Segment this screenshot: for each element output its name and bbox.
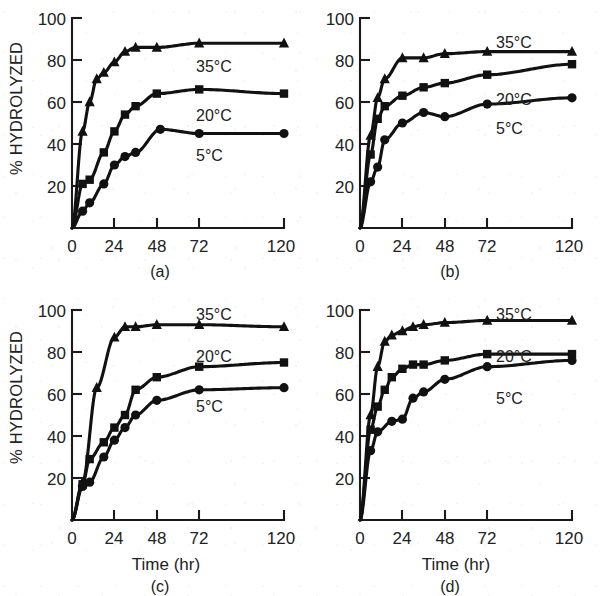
ytick-label-40: 40 (335, 136, 354, 155)
data-point-circle (483, 100, 492, 109)
xtick-label-48: 48 (148, 237, 167, 256)
data-point-circle (156, 125, 165, 134)
series-label-35c: 35°C (496, 34, 532, 51)
xtick-label-24: 24 (393, 237, 412, 256)
xtick-label-72: 72 (190, 529, 209, 548)
axis-lines (360, 18, 572, 228)
data-point-circle (78, 207, 87, 216)
panel-c-xtick-labels: 0 24 48 72 120 (67, 529, 295, 548)
data-point-circle (366, 177, 375, 186)
xtick-label-24: 24 (105, 529, 124, 548)
data-point-square (131, 386, 139, 394)
data-point-circle (419, 387, 428, 396)
data-point-circle (195, 129, 204, 138)
panel-d-data (360, 315, 577, 520)
panel-c-data (72, 319, 289, 520)
data-point-triangle (78, 126, 88, 136)
series-label-5c: 5°C (196, 398, 223, 415)
y-axis-title: % HYDROLYZED (7, 331, 25, 464)
ytick-label-60: 60 (335, 94, 354, 113)
data-point-square (153, 89, 161, 97)
data-point-square (280, 358, 288, 366)
data-point-square (100, 438, 108, 446)
panel-a: % HYDROLYZED 100 80 60 40 20 (0, 0, 300, 298)
data-point-square (85, 176, 93, 184)
data-point-square (280, 89, 288, 97)
data-point-circle (99, 452, 108, 461)
ytick-label-20: 20 (335, 178, 354, 197)
ytick-label-60: 60 (335, 386, 354, 405)
curve-35C (72, 325, 284, 520)
panel-d: 100 80 60 40 20 0 24 48 72 120 35°C 20°C… (300, 298, 600, 596)
data-point-square (398, 92, 406, 100)
ytick-label-100: 100 (326, 302, 354, 321)
xtick-label-24: 24 (105, 237, 124, 256)
data-point-square (110, 127, 118, 135)
series-label-20c: 20°C (496, 91, 532, 108)
data-point-square (121, 411, 129, 419)
curve-5C (72, 129, 284, 228)
data-point-circle (110, 160, 119, 169)
xtick-label-0: 0 (355, 237, 364, 256)
panel-caption-a: (a) (150, 263, 170, 280)
data-point-circle (279, 129, 288, 138)
ytick-label-80: 80 (47, 344, 66, 363)
data-point-square (121, 110, 129, 118)
data-point-circle (440, 375, 449, 384)
curve-20C (72, 89, 284, 228)
data-point-square (409, 360, 417, 368)
data-point-circle (373, 163, 382, 172)
y-axis-title: % HYDROLYZED (7, 42, 25, 175)
panel-c-ytick-labels: 100 80 60 40 20 (38, 302, 66, 489)
series-label-35c: 35°C (196, 58, 232, 75)
data-point-circle (440, 112, 449, 121)
ytick-label-80: 80 (335, 52, 354, 71)
panel-b-axes (360, 18, 572, 228)
data-point-circle (373, 427, 382, 436)
panel-d-xtick-labels: 0 24 48 72 120 (355, 529, 583, 548)
panel-a-plot: % HYDROLYZED 100 80 60 40 20 (0, 0, 300, 298)
xtick-label-0: 0 (67, 237, 76, 256)
panel-b-ytick-labels: 100 80 60 40 20 (326, 10, 354, 197)
data-point-circle (366, 446, 375, 455)
panel-c: % HYDROLYZED 100 80 60 40 20 (0, 298, 300, 596)
data-point-triangle (85, 96, 95, 106)
panel-b: 100 80 60 40 20 0 24 48 72 120 35°C 20°C… (300, 0, 600, 298)
panel-c-ylabel-group: % HYDROLYZED (7, 331, 25, 464)
panel-c-series-labels: 35°C 20°C 5°C (196, 306, 232, 415)
data-point-circle (110, 436, 119, 445)
data-point-square (381, 386, 389, 394)
series-label-35c: 35°C (496, 306, 532, 323)
data-point-circle (279, 383, 288, 392)
curve-5C (360, 98, 572, 228)
data-point-square (195, 85, 203, 93)
data-point-square (441, 79, 449, 87)
data-point-square (85, 455, 93, 463)
data-point-square (153, 373, 161, 381)
axis-lines (360, 310, 572, 520)
curve-20C (360, 64, 572, 228)
ytick-label-40: 40 (47, 428, 66, 447)
data-point-square (419, 360, 427, 368)
xtick-label-72: 72 (478, 237, 497, 256)
ytick-label-100: 100 (38, 302, 66, 321)
data-point-square (441, 356, 449, 364)
data-point-circle (85, 478, 94, 487)
panel-a-data (72, 38, 289, 228)
data-point-square (568, 60, 576, 68)
xtick-label-0: 0 (355, 529, 364, 548)
ytick-label-80: 80 (47, 52, 66, 71)
data-point-circle (483, 362, 492, 371)
panel-a-xtick-labels: 0 24 48 72 120 (67, 237, 295, 256)
panel-d-axes (360, 310, 572, 520)
ytick-label-20: 20 (335, 470, 354, 489)
xtick-label-0: 0 (67, 529, 76, 548)
series-label-20c: 20°C (496, 348, 532, 365)
hydrolysis-figure: % HYDROLYZED 100 80 60 40 20 (0, 0, 600, 596)
xtick-label-24: 24 (393, 529, 412, 548)
panel-caption-c: (c) (151, 578, 170, 595)
curve-5C (360, 360, 572, 520)
data-point-circle (567, 93, 576, 102)
series-label-5c: 5°C (496, 120, 523, 137)
data-point-circle (195, 385, 204, 394)
